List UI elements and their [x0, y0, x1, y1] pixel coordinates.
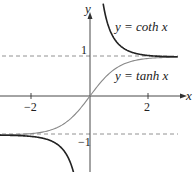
x-tick-label-neg2: −2 [24, 101, 37, 113]
coth-label-prefix: y = coth [115, 19, 162, 34]
y-tick-label-neg1: −1 [78, 136, 91, 148]
hyperbolic-functions-chart: y x −2 2 1 −1 y = coth x y = tanh x [0, 0, 193, 172]
coth-curve-negative-branch [0, 135, 78, 172]
y-axis-label: y [85, 2, 91, 15]
x-axis-label: x [186, 89, 192, 102]
tanh-label-var: x [162, 68, 168, 83]
tanh-curve-label: y = tanh x [115, 69, 168, 82]
x-tick-label-2: 2 [144, 101, 150, 113]
coth-label-var: x [162, 19, 168, 34]
y-tick-label-1: 1 [81, 44, 87, 56]
tanh-label-prefix: y = tanh [115, 68, 162, 83]
coth-curve-label: y = coth x [115, 20, 167, 33]
